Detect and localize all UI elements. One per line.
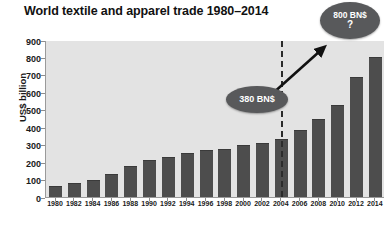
bar-2012 [350,77,363,197]
bar-1998 [218,149,231,197]
bar-2002 [256,143,269,197]
x-axis-tick-label: 1986 [102,200,120,207]
y-axis-tick-label: 0 [36,194,45,203]
chart-title: World textile and apparel trade 1980–201… [24,4,268,18]
callout-380-label: 380 BN$ [239,95,275,104]
x-axis-tick-label: 2014 [366,200,384,207]
plot-area [45,41,384,198]
bar-1996 [200,150,213,197]
chart-container: World textile and apparel trade 1980–201… [0,0,387,229]
y-axis-tick-label: 500 [26,107,45,116]
bar-2014 [369,57,382,197]
y-axis-tick-label: 200 [26,159,45,168]
y-axis-tick-label: 900 [26,37,45,46]
x-axis-tick-label: 1982 [65,200,83,207]
x-axis-tick-label: 2004 [272,200,290,207]
x-axis-tick-label: 2000 [234,200,252,207]
x-axis-tick-label: 1980 [46,200,64,207]
x-axis-tick-label: 2010 [328,200,346,207]
y-axis-tick-label: 600 [26,89,45,98]
bar-1988 [124,166,137,197]
y-axis-tick-label: 700 [26,72,45,81]
bar-2006 [294,130,307,197]
x-axis-tick-label: 1990 [140,200,158,207]
x-axis-tick-label: 2012 [347,200,365,207]
bar-series [46,41,384,197]
bar-2000 [237,145,250,197]
x-axis-tick-label: 1996 [197,200,215,207]
bar-2008 [312,119,325,198]
bar-1992 [162,157,175,197]
x-axis-tick-label: 1988 [121,200,139,207]
callout-800-label: 800 BN$ [333,11,367,20]
bar-1980 [49,186,62,197]
callout-800-bns: 800 BN$ ? [320,2,380,39]
bar-2010 [331,105,344,197]
y-axis-tick-label: 400 [26,124,45,133]
x-axis-tick-label: 2008 [309,200,327,207]
x-axis-tick-label: 1992 [159,200,177,207]
x-axis-labels: 1980198219841986198819901992199419961998… [45,200,384,207]
bar-1994 [181,153,194,197]
x-axis-tick-label: 2006 [291,200,309,207]
bar-1986 [105,174,118,197]
y-axis-tick-label: 300 [26,142,45,151]
bar-1982 [68,183,81,197]
x-axis-tick-label: 1984 [84,200,102,207]
callout-380-bns: 380 BN$ [226,86,288,113]
bar-1990 [143,160,156,198]
divider-dashed-line [281,41,283,197]
x-axis-tick-label: 1994 [178,200,196,207]
bar-1984 [87,180,100,197]
callout-800-sublabel: ? [347,19,353,30]
y-axis-tick-label: 800 [26,54,45,63]
y-axis-tick-label: 100 [26,177,45,186]
x-axis-tick-label: 2002 [253,200,271,207]
x-axis-tick-label: 1998 [215,200,233,207]
